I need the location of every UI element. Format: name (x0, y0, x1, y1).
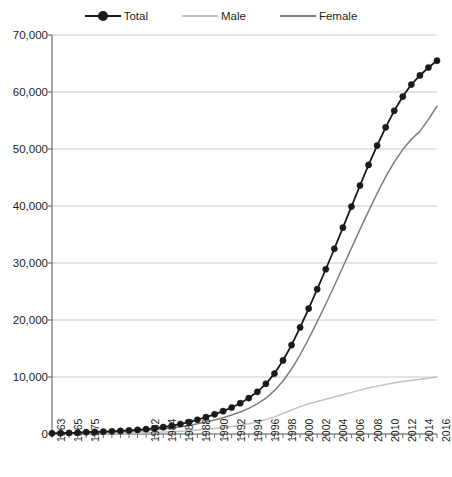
x-tick-label: 1982 (150, 419, 161, 442)
x-tick-label: 1996 (270, 419, 281, 442)
x-tick-label: 2016 (441, 419, 452, 442)
x-tick-label: 1992 (236, 419, 247, 442)
x-tick-label: 2004 (338, 419, 349, 442)
x-tick-label: 1965 (73, 419, 84, 442)
x-tick-label: 2002 (321, 419, 332, 442)
x-tick-label: 2008 (373, 419, 384, 442)
x-tick-label: 1975 (90, 419, 101, 442)
x-tick-label: 1984 (167, 419, 178, 442)
x-tick-label: 2006 (355, 419, 366, 442)
x-tick-label: 1990 (219, 419, 230, 442)
x-tick-label: 1986 (184, 419, 195, 442)
x-tick-label: 1963 (56, 419, 67, 442)
x-tick-label: 2012 (407, 419, 418, 442)
x-tick-label: 2010 (390, 419, 401, 442)
x-tick-label: 1994 (253, 419, 264, 442)
x-tick-label: 2000 (304, 419, 315, 442)
x-tick-label: 1998 (287, 419, 298, 442)
x-tick-label: 1988 (201, 419, 212, 442)
x-tick-label: 2014 (424, 419, 435, 442)
